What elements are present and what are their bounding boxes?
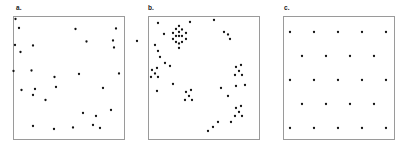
data-point bbox=[361, 79, 363, 81]
data-point bbox=[313, 79, 315, 81]
data-point bbox=[361, 31, 363, 33]
data-point bbox=[373, 55, 375, 57]
data-point bbox=[349, 103, 351, 105]
data-point bbox=[385, 127, 387, 129]
data-point bbox=[373, 103, 375, 105]
data-point bbox=[385, 31, 387, 33]
data-point bbox=[313, 31, 315, 33]
data-point bbox=[337, 127, 339, 129]
data-point bbox=[337, 79, 339, 81]
data-point bbox=[289, 127, 291, 129]
data-point bbox=[301, 55, 303, 57]
point-pattern-figure: a. b. c. bbox=[0, 0, 408, 151]
data-point bbox=[325, 103, 327, 105]
data-point bbox=[313, 127, 315, 129]
data-point bbox=[325, 55, 327, 57]
data-point bbox=[349, 55, 351, 57]
data-point bbox=[361, 127, 363, 129]
data-point bbox=[289, 31, 291, 33]
data-point bbox=[337, 31, 339, 33]
data-point bbox=[301, 103, 303, 105]
panel-c-points bbox=[0, 0, 408, 151]
data-point bbox=[385, 79, 387, 81]
data-point bbox=[289, 79, 291, 81]
